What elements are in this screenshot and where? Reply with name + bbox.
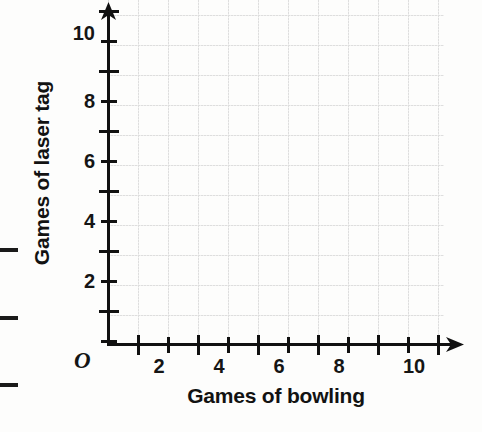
y-tick-label-6: 6 — [84, 150, 95, 173]
x-tick-label-10: 10 — [403, 355, 425, 378]
y-axis-title-container: Games of laser tag — [22, 0, 62, 345]
x-tick-label-6: 6 — [273, 355, 284, 378]
x-tick-label-4: 4 — [213, 355, 224, 378]
page-edge-mark — [0, 383, 18, 387]
x-axis-title: Games of bowling — [108, 384, 444, 408]
y-tick-label-8: 8 — [84, 90, 95, 113]
y-axis-title: Games of laser tag — [30, 80, 54, 264]
coordinate-plane-figure: 2 4 6 8 10 2 4 6 8 10 O Games of bowling… — [0, 0, 482, 432]
origin-label: O — [74, 348, 91, 374]
page-edge-mark — [0, 316, 18, 320]
page-edge-mark — [0, 248, 18, 252]
x-tick-label-8: 8 — [333, 355, 344, 378]
x-tick-label-2: 2 — [153, 355, 164, 378]
y-tick-label-4: 4 — [84, 210, 95, 233]
y-tick-label-10: 10 — [73, 22, 95, 45]
y-tick-label-2: 2 — [84, 270, 95, 293]
